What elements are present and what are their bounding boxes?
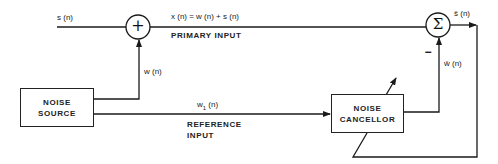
adder-plus-symbol: + <box>130 18 146 34</box>
noise-source-label-2: SOURCE <box>38 108 76 119</box>
noise-cancellor-box: NOISE CANCELLOR <box>331 94 404 133</box>
noise-source-label-1: NOISE <box>43 97 71 108</box>
label-w: w (n) <box>144 68 162 76</box>
label-x: x (n) = w (n) + s (n) <box>171 13 239 21</box>
noise-cancellor-label-2: CANCELLOR <box>340 114 396 125</box>
signal-line-w <box>93 40 139 99</box>
label-primary-input: PRIMARY INPUT <box>171 32 241 40</box>
label-s-hat: ŝ (n) <box>454 10 470 18</box>
adaptive-arrow <box>386 78 396 95</box>
feedback-line <box>353 25 477 157</box>
label-w1: w1 (n) <box>197 101 218 111</box>
label-w1-suffix: (n) <box>206 100 218 109</box>
noise-cancellor-label-1: NOISE <box>354 103 382 114</box>
label-reference-input-2: INPUT <box>187 132 214 140</box>
summer-sigma-symbol: Σ <box>430 17 446 32</box>
signal-line-w-hat <box>403 38 439 112</box>
label-reference-input-1: REFERENCE <box>187 121 242 129</box>
diagram-wires <box>0 0 498 164</box>
noise-source-box: NOISE SOURCE <box>20 88 94 127</box>
label-s: s (n) <box>57 14 73 22</box>
label-w-hat: ŵ (n) <box>444 60 462 68</box>
minus-sign: − <box>423 46 433 58</box>
